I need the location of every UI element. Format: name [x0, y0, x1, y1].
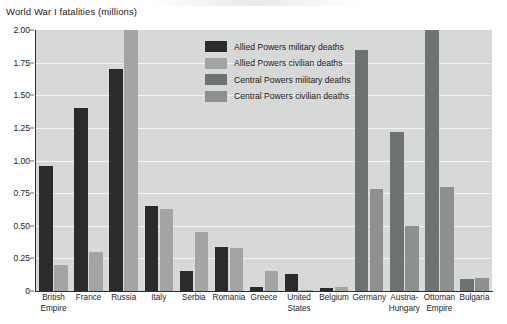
legend-item: Central Powers civilian deaths	[205, 91, 351, 102]
y-axis-tick-label: 1.00	[13, 156, 30, 166]
y-axis-tick-mark	[30, 291, 34, 292]
paper-smudge	[150, 0, 360, 6]
bar	[39, 166, 53, 291]
legend-swatch	[205, 58, 227, 69]
y-axis-tick-mark	[30, 95, 34, 96]
legend-item: Central Powers military deaths	[205, 74, 351, 85]
bar	[390, 132, 404, 291]
y-axis-tick-label: 2.00	[13, 25, 30, 35]
legend-label: Allied Powers civilian deaths	[234, 58, 342, 68]
y-axis-tick-label: 0.50	[13, 221, 30, 231]
y-axis-tick-label: 0.75	[13, 188, 30, 198]
bar	[285, 274, 299, 291]
bar	[74, 108, 88, 291]
legend-swatch	[205, 74, 227, 85]
legend-label: Central Powers military deaths	[234, 75, 351, 85]
y-axis-tick-mark	[30, 62, 34, 63]
bar	[109, 69, 123, 291]
bar	[180, 271, 194, 291]
legend-swatch	[205, 91, 227, 102]
legend-item: Allied Powers military deaths	[205, 41, 351, 52]
y-axis-tick-mark	[30, 30, 34, 31]
chart-title: World War I fatalities (millions)	[6, 6, 137, 17]
chart-legend: Allied Powers military deathsAllied Powe…	[205, 41, 351, 102]
y-axis-tick-label: 1.25	[13, 123, 30, 133]
bar	[124, 30, 138, 291]
y-axis-tick-label: 1.75	[13, 58, 30, 68]
bar	[145, 206, 159, 291]
y-axis-tick-mark	[30, 225, 34, 226]
y-axis-tick-mark	[30, 160, 34, 161]
y-axis-tick-mark	[30, 258, 34, 259]
bar	[160, 209, 174, 291]
y-axis-tick-label: 0.25	[13, 253, 30, 263]
bar	[54, 265, 68, 291]
bar	[89, 252, 103, 291]
x-axis-label: Bulgaria	[448, 293, 501, 304]
legend-swatch	[205, 41, 227, 52]
bar	[215, 247, 229, 291]
bar	[440, 187, 454, 291]
bar	[230, 248, 244, 291]
bar	[355, 50, 369, 291]
x-axis-line	[35, 291, 493, 292]
y-axis: 2.001.751.501.251.000.750.500.250	[0, 30, 34, 291]
x-axis-labels: BritishEmpireFranceRussiaItalySerbiaRoma…	[36, 293, 492, 324]
y-axis-tick-mark	[30, 127, 34, 128]
y-axis-line	[35, 30, 36, 292]
bar	[405, 226, 419, 291]
y-axis-tick-label: 1.50	[13, 90, 30, 100]
bar	[265, 271, 279, 291]
legend-label: Allied Powers military deaths	[234, 42, 344, 52]
bar	[425, 30, 439, 291]
legend-label: Central Powers civilian deaths	[234, 91, 349, 101]
bar	[475, 278, 489, 291]
y-axis-tick-mark	[30, 193, 34, 194]
bar	[370, 189, 384, 291]
bar	[460, 279, 474, 291]
legend-item: Allied Powers civilian deaths	[205, 58, 351, 69]
wwi-fatalities-bar-chart: World War I fatalities (millions) 2.001.…	[0, 0, 507, 324]
bar	[195, 232, 209, 291]
